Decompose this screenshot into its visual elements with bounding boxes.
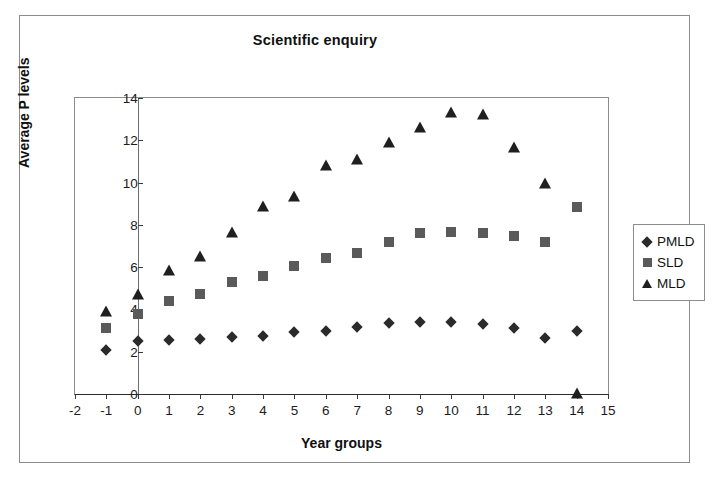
data-point-sld — [258, 271, 268, 281]
x-axis-tick — [326, 394, 327, 399]
data-point-sld — [101, 323, 111, 333]
data-point-sld — [540, 237, 550, 247]
data-point-pmld — [257, 330, 268, 341]
x-axis-tick — [263, 394, 264, 399]
legend-item-pmld[interactable]: PMLD — [640, 231, 695, 252]
x-axis-tick — [200, 394, 201, 399]
x-axis-tick — [483, 394, 484, 399]
data-point-pmld — [320, 325, 331, 336]
diamond-marker-icon — [640, 238, 654, 246]
y-axis-tick-label: 8 — [78, 217, 146, 232]
x-axis-tick-label: -2 — [69, 403, 81, 418]
data-point-pmld — [477, 319, 488, 330]
data-point-pmld — [383, 317, 394, 328]
data-point-pmld — [508, 323, 519, 334]
x-axis-tick-label: 9 — [416, 403, 424, 418]
x-axis-tick-label: -1 — [100, 403, 112, 418]
x-axis-tick-label: 7 — [353, 403, 361, 418]
legend-item-sld[interactable]: SLD — [640, 252, 695, 273]
y-axis-tick-label: 2 — [78, 344, 146, 359]
x-axis-title: Year groups — [74, 435, 609, 451]
x-axis-tick-label: 15 — [600, 403, 615, 418]
x-axis-tick — [138, 394, 139, 399]
x-axis-tick — [608, 394, 609, 399]
data-point-pmld — [163, 334, 174, 345]
data-point-mld — [383, 137, 395, 148]
chart-title: Scientific enquiry — [20, 32, 610, 48]
plot-area: 02468101214 -2-10123456789101112131415 — [74, 97, 609, 395]
data-point-sld — [133, 309, 143, 319]
data-point-mld — [508, 141, 520, 152]
x-axis-tick — [294, 394, 295, 399]
x-axis-tick-label: 10 — [444, 403, 459, 418]
data-point-mld — [226, 227, 238, 238]
legend-item-label: MLD — [657, 276, 686, 291]
data-point-sld — [195, 289, 205, 299]
x-axis-tick-label: 14 — [569, 403, 584, 418]
x-axis-tick-label: 4 — [259, 403, 267, 418]
data-point-sld — [321, 253, 331, 263]
y-axis-tick-label: 6 — [78, 260, 146, 275]
triangle-marker-icon — [640, 279, 654, 288]
chart-legend: PMLDSLDMLD — [633, 224, 705, 301]
y-axis-tick-label: 14 — [78, 91, 146, 106]
data-point-mld — [194, 250, 206, 261]
data-point-mld — [320, 159, 332, 170]
x-axis-tick — [451, 394, 452, 399]
x-axis-tick-label: 8 — [385, 403, 393, 418]
x-axis-tick-label: 12 — [506, 403, 521, 418]
legend-item-mld[interactable]: MLD — [640, 273, 695, 294]
data-point-mld — [257, 200, 269, 211]
data-point-pmld — [540, 332, 551, 343]
y-axis-title: Average P levels — [16, 57, 32, 168]
x-axis-tick — [357, 394, 358, 399]
x-axis-tick — [169, 394, 170, 399]
data-point-mld — [414, 121, 426, 132]
x-axis-tick-label: 5 — [291, 403, 299, 418]
y-axis-tick-label: 0 — [78, 387, 146, 402]
y-axis-tick-label: 12 — [78, 133, 146, 148]
x-axis-tick — [232, 394, 233, 399]
data-point-sld — [509, 231, 519, 241]
data-point-pmld — [352, 322, 363, 333]
data-point-pmld — [414, 316, 425, 327]
data-point-sld — [384, 237, 394, 247]
chart-frame: Scientific enquiry Average P levels Year… — [19, 15, 690, 463]
x-axis-tick-label: 2 — [197, 403, 205, 418]
data-point-mld — [132, 288, 144, 299]
y-axis-tick-label: 10 — [78, 175, 146, 190]
data-point-sld — [352, 248, 362, 258]
data-point-sld — [572, 202, 582, 212]
data-point-sld — [164, 296, 174, 306]
data-point-mld — [163, 265, 175, 276]
x-axis-tick — [106, 394, 107, 399]
x-axis-tick-label: 13 — [538, 403, 553, 418]
data-point-sld — [289, 261, 299, 271]
data-point-mld — [539, 177, 551, 188]
data-point-pmld — [226, 331, 237, 342]
data-point-mld — [351, 154, 363, 165]
x-axis-tick-label: 0 — [134, 403, 142, 418]
data-point-mld — [445, 106, 457, 117]
data-point-sld — [446, 227, 456, 237]
data-point-mld — [288, 191, 300, 202]
data-point-pmld — [446, 316, 457, 327]
data-point-mld — [571, 387, 583, 398]
data-point-sld — [415, 228, 425, 238]
data-point-mld — [477, 108, 489, 119]
data-point-pmld — [195, 333, 206, 344]
x-axis-tick-label: 6 — [322, 403, 330, 418]
data-point-pmld — [289, 326, 300, 337]
legend-item-label: PMLD — [657, 234, 695, 249]
x-axis-tick — [545, 394, 546, 399]
x-axis-tick-label: 1 — [165, 403, 173, 418]
data-point-sld — [478, 228, 488, 238]
square-marker-icon — [640, 258, 654, 267]
legend-item-label: SLD — [657, 255, 683, 270]
x-axis-tick — [75, 394, 76, 399]
x-axis-tick — [514, 394, 515, 399]
x-axis-tick-label: 11 — [476, 403, 490, 418]
x-axis-tick — [420, 394, 421, 399]
x-axis-tick-label: 3 — [228, 403, 236, 418]
data-point-sld — [227, 277, 237, 287]
